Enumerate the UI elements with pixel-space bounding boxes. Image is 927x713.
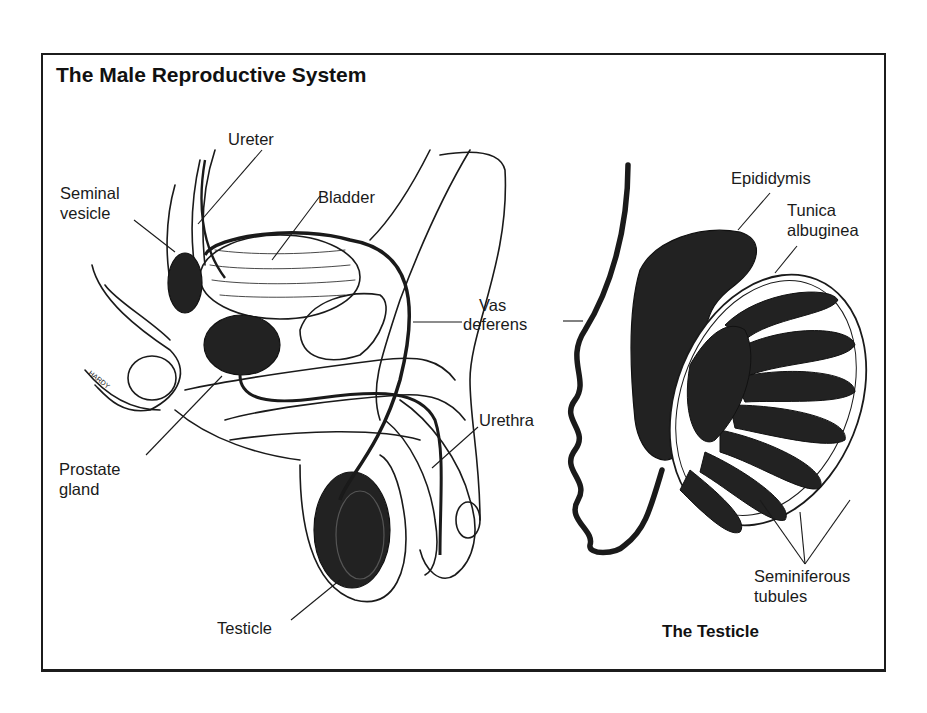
- label-testicle: Testicle: [217, 618, 272, 638]
- seminal-vesicle-shape: [168, 253, 202, 313]
- label-prostate-line2: gland: [59, 479, 99, 499]
- label-seminiferous-line1: Seminiferous: [754, 566, 850, 586]
- body-outline-back: [440, 152, 505, 520]
- panel-caption-testicle: The Testicle: [662, 622, 759, 642]
- label-urethra: Urethra: [479, 410, 534, 430]
- anatomy-illustration: HARDY: [0, 0, 927, 713]
- prostate-shape: [204, 315, 280, 375]
- label-prostate-line1: Prostate: [59, 459, 120, 479]
- label-tunica-line2: albuginea: [787, 220, 859, 240]
- label-seminal-vesicle-line2: vesicle: [60, 203, 110, 223]
- label-ureter: Ureter: [228, 129, 274, 149]
- label-vas-deferens-line1: Vas: [479, 295, 506, 315]
- artist-signature: HARDY: [87, 369, 111, 390]
- testicle-shape: [314, 472, 390, 588]
- label-bladder: Bladder: [318, 187, 375, 207]
- label-seminal-vesicle-line1: Seminal: [60, 183, 120, 203]
- label-vas-deferens-line2: deferens: [463, 314, 527, 334]
- label-tunica-line1: Tunica: [787, 200, 836, 220]
- label-epididymis: Epididymis: [731, 168, 811, 188]
- label-seminiferous-line2: tubules: [754, 586, 807, 606]
